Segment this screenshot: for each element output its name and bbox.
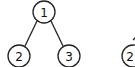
node-partial-label: 2 — [126, 50, 134, 64]
node-1-label: 1 — [40, 6, 48, 20]
node-2: 2 — [8, 45, 30, 67]
tree-diagram: 1 2 3 2 — [0, 0, 135, 67]
node-3: 3 — [58, 45, 80, 67]
edge-1-2 — [25, 21, 37, 46]
edge-1-3 — [51, 21, 63, 46]
node-3-label: 3 — [65, 50, 73, 64]
node-partial-2: 2 — [122, 45, 135, 67]
node-2-label: 2 — [15, 50, 23, 64]
edge-partial — [133, 37, 135, 40]
node-1: 1 — [33, 1, 55, 23]
